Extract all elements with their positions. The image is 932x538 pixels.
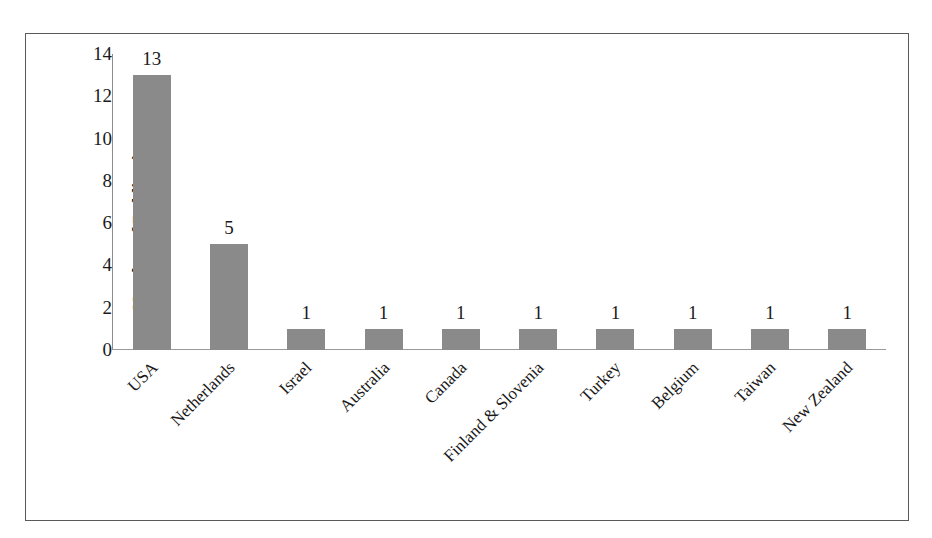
- bar-value-label: 1: [688, 303, 698, 322]
- bar-value-label: 1: [456, 303, 466, 322]
- y-axis-tick-label: 8: [78, 171, 112, 190]
- x-axis-tick: Australia: [345, 352, 422, 502]
- x-axis-tick: Turkey: [577, 352, 654, 502]
- x-axis-tick: Netherlands: [190, 352, 267, 502]
- bar-group: 1: [809, 54, 886, 350]
- bar-value-label: 1: [533, 303, 543, 322]
- bar-group: 5: [190, 54, 267, 350]
- x-axis-tick: Israel: [268, 352, 345, 502]
- bar-group: 1: [422, 54, 499, 350]
- bar-group: 1: [654, 54, 731, 350]
- x-axis-tick: Finland & Slovenia: [500, 352, 577, 502]
- bar-group: 13: [113, 54, 190, 350]
- x-axis-tick: Belgium: [654, 352, 731, 502]
- y-axis-tick-labels: 14121086420: [66, 34, 112, 520]
- y-axis-tick-label: 14: [78, 44, 112, 63]
- bar-value-label: 1: [379, 303, 389, 322]
- x-axis-tick-labels: USANetherlandsIsraelAustraliaCanadaFinla…: [113, 352, 886, 502]
- bar-chart: Number of Publications 14121086420 13511…: [26, 34, 908, 520]
- bar-value-label: 1: [301, 303, 311, 322]
- y-axis-tick-label: 6: [78, 213, 112, 232]
- bar-value-label: 13: [142, 49, 161, 68]
- bar-group: 1: [345, 54, 422, 350]
- bar-value-label: 5: [224, 218, 234, 237]
- figure-frame: Number of Publications 14121086420 13511…: [25, 33, 909, 521]
- bar-value-label: 1: [765, 303, 775, 322]
- bar-value-label: 1: [843, 303, 853, 322]
- bar[interactable]: [210, 244, 248, 350]
- x-axis-tick: New Zealand: [809, 352, 886, 502]
- y-axis-tick-label: 10: [78, 129, 112, 148]
- bar-group: 1: [500, 54, 577, 350]
- y-axis-tick-label: 4: [78, 255, 112, 274]
- plot-bars: 13511111111: [113, 54, 886, 350]
- y-axis-tick-label: 0: [78, 340, 112, 359]
- y-axis-tick-label: 12: [78, 86, 112, 105]
- bar[interactable]: [133, 75, 171, 350]
- bar-group: 1: [731, 54, 808, 350]
- y-axis-tick-label: 2: [78, 298, 112, 317]
